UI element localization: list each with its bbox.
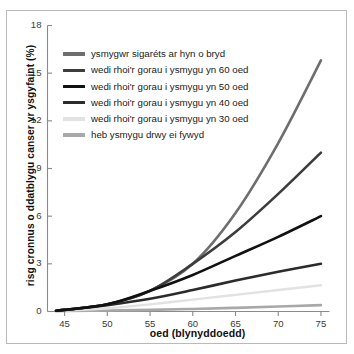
legend-item: wedi rhoi'r gorau i ysmygu yn 60 oed [63, 62, 313, 78]
legend-item-label: wedi rhoi'r gorau i ysmygu yn 30 oed [91, 114, 248, 124]
y-axis-title: risg cronnus o ddatblygu canser yr ysgyf… [25, 41, 36, 291]
legend-item-label: wedi rhoi'r gorau i ysmygu yn 60 oed [91, 65, 248, 75]
series-line [56, 153, 321, 311]
legend-color-swatch-icon [63, 69, 85, 72]
y-tick-label: 0 [16, 305, 42, 316]
y-tick-label: 18 [16, 19, 42, 30]
legend-color-swatch-icon [63, 117, 85, 120]
chart-legend: ysmygwr sigaréts ar hyn o brydwedi rhoi'… [63, 46, 313, 143]
legend-item: heb ysmygu drwy ei fywyd [63, 127, 313, 143]
legend-color-swatch-icon [63, 52, 85, 55]
legend-item-label: wedi rhoi'r gorau i ysmygu yn 40 oed [91, 98, 248, 108]
chart-figure: 0369121518 45505560657075 risg cronnus o… [0, 0, 354, 354]
legend-item: wedi rhoi'r gorau i ysmygu yn 30 oed [63, 111, 313, 127]
legend-item: wedi rhoi'r gorau i ysmygu yn 40 oed [63, 95, 313, 111]
legend-item-label: wedi rhoi'r gorau i ysmygu yn 50 oed [91, 82, 248, 92]
legend-item: ysmygwr sigaréts ar hyn o bryd [63, 46, 313, 62]
series-line [56, 264, 321, 311]
series-line [56, 216, 321, 311]
legend-color-swatch-icon [63, 85, 85, 88]
legend-color-swatch-icon [63, 101, 85, 104]
legend-color-swatch-icon [63, 133, 85, 136]
legend-item-label: ysmygwr sigaréts ar hyn o bryd [91, 49, 225, 59]
legend-item-label: heb ysmygu drwy ei fywyd [91, 130, 204, 140]
legend-item: wedi rhoi'r gorau i ysmygu yn 50 oed [63, 78, 313, 94]
x-axis-title: oed (blynyddoedd) [60, 327, 335, 339]
